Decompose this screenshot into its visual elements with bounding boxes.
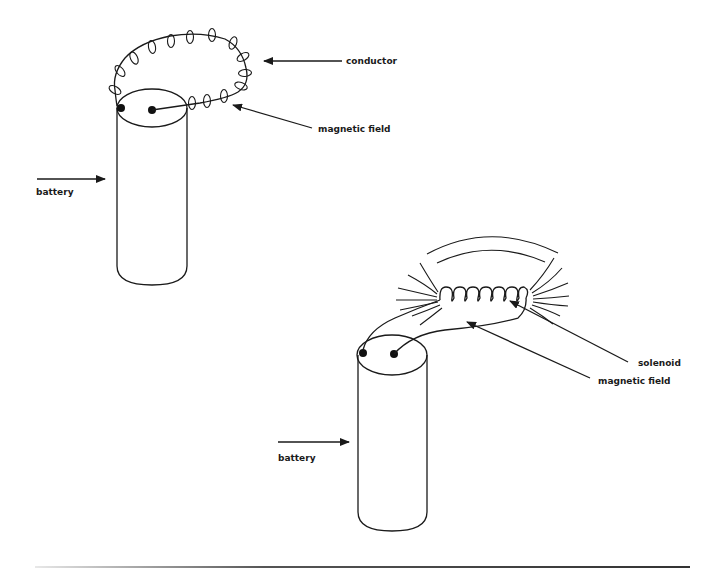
solenoid-coil: [440, 287, 528, 301]
label-solenoid: solenoid: [638, 358, 681, 368]
magnetic-field-pointer-bottom: [467, 322, 590, 378]
label-battery-top: battery: [36, 187, 74, 197]
figure-bottom: solenoid magnetic field battery: [278, 237, 681, 531]
label-magnetic-field-top: magnetic field: [318, 124, 391, 134]
magnetic-field-rings: [108, 29, 252, 110]
terminal-negative: [117, 104, 125, 112]
figure-top: conductor magnetic field battery: [36, 29, 398, 286]
label-magnetic-field-bottom: magnetic field: [598, 376, 671, 386]
battery-cylinder-bottom: [357, 335, 427, 531]
solenoid-wires: [363, 298, 526, 354]
solenoid-field-lines: [396, 237, 569, 325]
battery-cylinder-top: [117, 89, 187, 285]
terminal-negative-bottom: [359, 349, 367, 357]
label-battery-bottom: battery: [278, 453, 316, 463]
page-rule: [35, 566, 690, 568]
solenoid-pointer: [510, 301, 628, 362]
label-conductor: conductor: [346, 56, 398, 66]
diagram-canvas: conductor magnetic field battery: [0, 0, 715, 569]
magnetic-field-pointer-top: [233, 105, 312, 128]
